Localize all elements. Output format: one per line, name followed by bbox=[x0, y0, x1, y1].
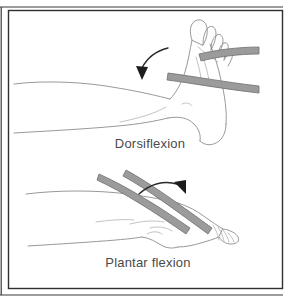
figure-canvas: Dorsiflexion bbox=[0, 0, 299, 302]
panel-caption-plantar-flexion: Plantar flexion bbox=[105, 255, 190, 270]
panel-caption-dorsiflexion: Dorsiflexion bbox=[115, 136, 185, 151]
ankle-exercise-figure: Dorsiflexion bbox=[0, 0, 299, 302]
